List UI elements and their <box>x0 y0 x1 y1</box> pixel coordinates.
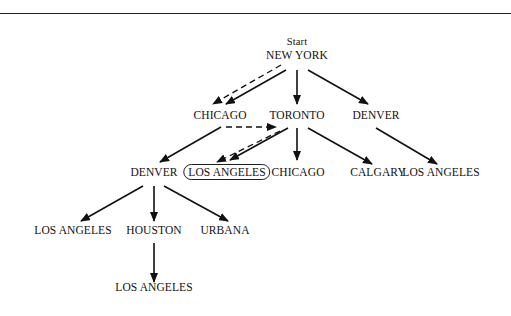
node-los-angeles: LOS ANGELES <box>115 281 192 293</box>
node-new-york: NEW YORK <box>266 49 328 61</box>
node-los-angeles-goal: LOS ANGELES <box>183 164 270 180</box>
node-denver: DENVER <box>130 166 177 178</box>
node-urbana: URBANA <box>200 224 249 236</box>
search-tree-edges <box>0 0 511 316</box>
node-denver: DENVER <box>352 109 399 121</box>
node-houston: HOUSTON <box>126 224 181 236</box>
node-los-angeles: LOS ANGELES <box>402 166 479 178</box>
node-chicago: CHICAGO <box>193 109 246 121</box>
node-los-angeles: LOS ANGELES <box>34 224 111 236</box>
node-toronto: TORONTO <box>269 109 324 121</box>
start-label: Start <box>287 36 307 47</box>
node-calgary: CALGARY <box>350 166 406 178</box>
node-chicago: CHICAGO <box>271 166 324 178</box>
